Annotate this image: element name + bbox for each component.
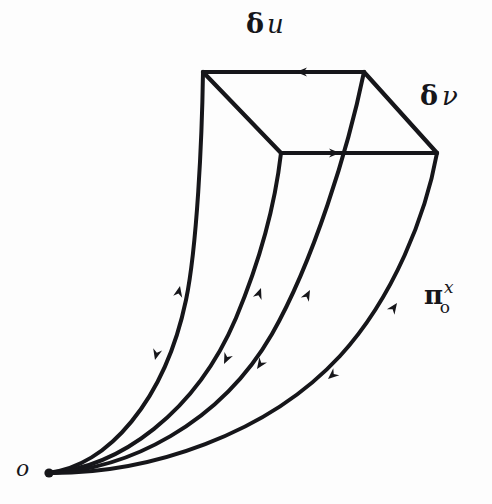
label-origin: o [16, 458, 29, 480]
curve-4-up-arrow-icon [387, 300, 401, 314]
parallelogram-frame [203, 72, 437, 153]
curve-2-down-arrow-icon [220, 352, 233, 366]
edge-top-left-diagonal [203, 72, 281, 153]
nu-variable: ν [442, 81, 458, 111]
curve-1-up-arrow-icon [173, 285, 184, 298]
delta-symbol: δ [246, 8, 264, 39]
label-delta-nu: δν [420, 82, 458, 109]
pi-superscript-x: x [444, 277, 454, 297]
parallel-transport-figure: δu δν πxo o [0, 0, 492, 504]
diagram-canvas [0, 0, 492, 504]
u-variable: u [267, 9, 284, 39]
curve-4 [48, 153, 437, 473]
curve-3-up-arrow-icon [301, 288, 314, 302]
label-delta-u: δu [246, 10, 284, 37]
delta-symbol: δ [420, 80, 438, 111]
origin-point-dot [44, 468, 53, 477]
pi-subscript-o: o [440, 297, 450, 317]
curve-3 [48, 72, 364, 473]
curve-1 [48, 72, 203, 473]
transport-curves [48, 72, 437, 473]
curve-2-up-arrow-icon [253, 286, 265, 299]
label-transport-operator: πxo [424, 282, 463, 308]
curve-1-down-arrow-icon [151, 348, 163, 361]
